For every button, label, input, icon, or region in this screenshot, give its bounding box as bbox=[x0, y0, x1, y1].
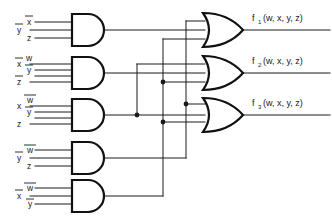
input-label-w-bar: w bbox=[26, 145, 34, 155]
input-label-z: z bbox=[27, 161, 31, 171]
input-label-z: z bbox=[17, 119, 21, 129]
and-gate-5 bbox=[72, 180, 104, 212]
input-label-w: w bbox=[25, 53, 33, 63]
f3-args: (w, x, y, z) bbox=[263, 98, 303, 108]
junction-and5-lower bbox=[161, 120, 166, 125]
logic-circuit-diagram: y x z x w y z x w y z y w z x w bbox=[0, 0, 332, 222]
input-label-z: z bbox=[27, 33, 31, 43]
and-gate-2 bbox=[72, 57, 104, 89]
and-gate-1 bbox=[72, 14, 104, 46]
junction-and3-branch bbox=[135, 113, 140, 118]
f2-args: (w, x, y, z) bbox=[263, 56, 303, 66]
and-gate-4 bbox=[72, 142, 104, 174]
f1-args: (w, x, y, z) bbox=[263, 13, 303, 23]
input-label-w-bar: w bbox=[26, 95, 34, 105]
input-label-z-bar: z bbox=[17, 77, 21, 87]
junction-and4-branch bbox=[184, 102, 189, 107]
input-label-w-bar: w bbox=[26, 183, 34, 193]
diagram-background bbox=[0, 0, 332, 222]
junction-and5-upper bbox=[161, 80, 166, 85]
and-gate-3 bbox=[72, 99, 104, 131]
